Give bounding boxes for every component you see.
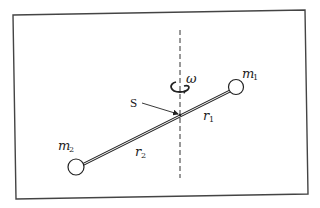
- svg-text:1: 1: [209, 115, 214, 124]
- label-pivot-s: S: [130, 95, 137, 110]
- mass-1-circle: [229, 80, 244, 95]
- svg-text:1: 1: [253, 73, 258, 82]
- label-omega: ω: [186, 71, 197, 86]
- mass-2-circle: [68, 159, 84, 175]
- pivot-point: [179, 114, 182, 117]
- svg-text:2: 2: [69, 145, 74, 154]
- label-mass-1: m 1: [242, 66, 258, 82]
- rotating-dumbbell-diagram: ω S m 1 m 2 r 1 r 2: [0, 0, 320, 208]
- label-radius-2: r 2: [135, 144, 146, 160]
- pivot-pointer-arrow: [142, 103, 178, 114]
- svg-text:2: 2: [141, 151, 146, 160]
- label-mass-2: m 2: [58, 138, 74, 154]
- label-radius-1: r 1: [203, 108, 214, 124]
- rigid-rod: [82, 91, 230, 165]
- figure-frame: [13, 10, 308, 199]
